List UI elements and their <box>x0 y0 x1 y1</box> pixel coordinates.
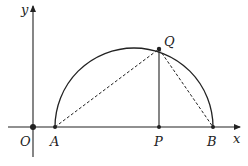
geometry-figure: y x O A P B Q <box>0 0 248 166</box>
label-B: B <box>206 134 217 149</box>
point-O <box>30 124 36 130</box>
label-P: P <box>153 134 163 149</box>
x-axis-label: x <box>233 131 241 146</box>
y-axis-label: y <box>20 2 29 17</box>
segment-QB <box>159 49 213 127</box>
point-A <box>53 125 57 129</box>
point-Q <box>157 47 161 51</box>
point-B <box>211 125 215 129</box>
label-Q: Q <box>164 34 175 49</box>
point-P <box>157 125 161 129</box>
diagram-canvas: y x O A P B Q <box>0 0 248 166</box>
label-O: O <box>20 134 31 149</box>
semicircle-arc <box>55 48 213 127</box>
segment-AQ <box>55 49 159 127</box>
label-A: A <box>49 134 59 149</box>
